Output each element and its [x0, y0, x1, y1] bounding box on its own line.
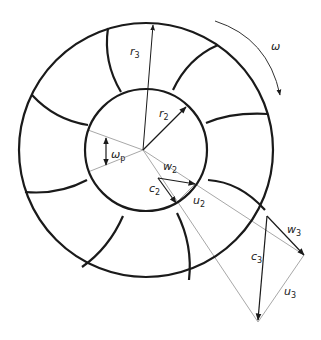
label-w2: w2: [163, 160, 177, 175]
label-c3: c3: [251, 250, 262, 265]
blade: [32, 95, 88, 125]
label-w3: w3: [287, 223, 301, 238]
omega-arrow: [215, 21, 280, 95]
c3-vector: [258, 216, 267, 320]
blade: [25, 180, 87, 193]
label-u3: u3: [284, 285, 296, 300]
label-omega: ω: [271, 40, 280, 53]
blade: [173, 45, 218, 90]
blade: [208, 180, 265, 210]
outer-circle: [19, 23, 273, 277]
label-r3: r3: [130, 45, 140, 60]
blades: [25, 28, 268, 280]
label-u2: u2: [193, 194, 205, 209]
label-c2: c2: [149, 182, 160, 197]
blade: [82, 216, 123, 267]
impeller-diagram: r3 r2 ω ωp w2 c2 u2 w3 c3 u3: [0, 0, 321, 340]
label-r2: r2: [159, 107, 169, 122]
blade: [206, 114, 268, 123]
r3-arrow: [143, 25, 153, 150]
c2-vector: [158, 178, 176, 203]
label-omega-p: ωp: [111, 148, 125, 163]
blade: [107, 28, 121, 92]
